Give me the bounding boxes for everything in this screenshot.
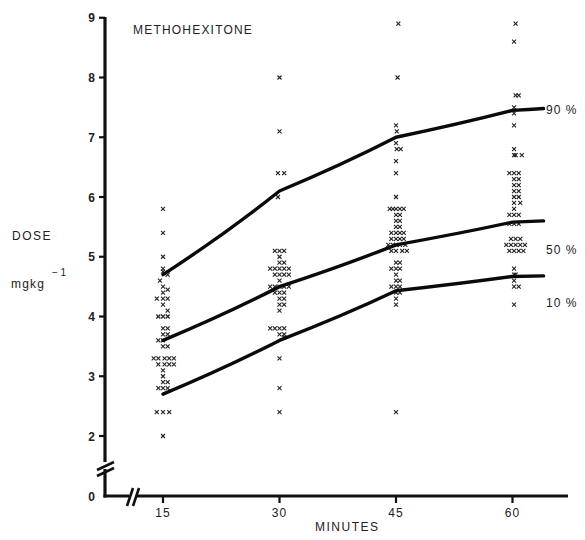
x-marker-icon xyxy=(394,297,398,301)
x-marker-icon xyxy=(517,177,521,181)
x-marker-icon xyxy=(394,141,398,145)
x-marker-icon xyxy=(161,368,165,372)
x-marker-icon xyxy=(394,219,398,223)
x-marker-icon xyxy=(155,410,159,414)
x-marker-icon xyxy=(278,309,282,313)
x-marker-icon xyxy=(268,326,272,330)
x-marker-icon xyxy=(512,171,516,175)
x-marker-icon xyxy=(517,213,521,217)
x-marker-icon xyxy=(282,249,286,253)
x-marker-icon xyxy=(278,303,282,307)
x-marker-icon xyxy=(278,261,282,265)
x-marker-icon xyxy=(273,273,277,277)
x-marker-icon xyxy=(278,129,282,133)
x-marker-icon xyxy=(282,273,286,277)
x-marker-icon xyxy=(389,231,393,235)
x-marker-icon xyxy=(396,22,400,26)
x-marker-icon xyxy=(278,386,282,390)
x-marker-icon xyxy=(512,285,516,289)
x-marker-icon xyxy=(394,225,398,229)
x-marker-icon xyxy=(394,237,398,241)
x-marker-icon xyxy=(278,76,282,80)
x-marker-icon xyxy=(166,386,170,390)
x-marker-icon xyxy=(278,326,282,330)
x-marker-icon xyxy=(512,177,516,181)
x-marker-icon xyxy=(161,207,165,211)
y-tick-label: 8 xyxy=(88,71,95,85)
y-tick-label: 0 xyxy=(88,490,95,504)
curve-label-50: 50 % xyxy=(546,243,577,257)
x-marker-icon xyxy=(402,231,406,235)
x-marker-icon xyxy=(161,344,165,348)
x-marker-icon xyxy=(518,243,522,247)
x-marker-icon xyxy=(156,356,160,360)
x-marker-icon xyxy=(161,285,165,289)
x-tick-label: 15 xyxy=(155,506,170,520)
x-marker-icon xyxy=(507,213,511,217)
x-marker-icon xyxy=(161,374,165,378)
x-marker-icon xyxy=(512,279,516,283)
x-marker-icon xyxy=(398,285,402,289)
x-marker-icon xyxy=(512,189,516,193)
x-axis-label: MINUTES xyxy=(315,520,380,534)
x-marker-icon xyxy=(509,237,513,241)
x-marker-icon xyxy=(166,288,170,292)
x-marker-icon xyxy=(394,231,398,235)
x-marker-icon xyxy=(287,273,291,277)
x-marker-icon xyxy=(398,219,402,223)
x-marker-icon xyxy=(512,249,516,253)
y-axis-units: mgkg xyxy=(11,277,45,291)
x-marker-icon xyxy=(282,297,286,301)
x-marker-icon xyxy=(276,171,280,175)
x-marker-icon xyxy=(389,237,393,241)
x-marker-icon xyxy=(512,183,516,187)
x-marker-icon xyxy=(158,279,162,283)
x-marker-icon xyxy=(517,195,521,199)
x-marker-icon xyxy=(273,249,277,253)
x-marker-icon xyxy=(166,380,170,384)
x-marker-icon xyxy=(394,123,398,127)
y-tick-label: 3 xyxy=(88,370,95,384)
curve-10 xyxy=(163,276,544,394)
x-marker-icon xyxy=(507,249,511,253)
x-marker-icon xyxy=(273,267,277,271)
x-marker-icon xyxy=(399,147,403,151)
y-axis-units-exponent: − 1 xyxy=(52,267,67,278)
x-marker-icon xyxy=(509,243,513,247)
x-marker-icon xyxy=(398,213,402,217)
x-tick-label: 30 xyxy=(272,506,287,520)
x-tick-label: 60 xyxy=(505,506,520,520)
x-marker-icon xyxy=(394,207,398,211)
x-marker-icon xyxy=(398,231,402,235)
x-marker-icon xyxy=(520,153,524,157)
x-marker-icon xyxy=(278,267,282,271)
x-marker-icon xyxy=(521,249,525,253)
y-tick-label: 6 xyxy=(88,191,95,205)
x-marker-icon xyxy=(517,189,521,193)
x-marker-icon xyxy=(161,332,165,336)
curve-label-90: 90 % xyxy=(546,103,577,117)
x-marker-icon xyxy=(156,386,160,390)
x-marker-icon xyxy=(268,267,272,271)
x-marker-icon xyxy=(282,291,286,295)
x-marker-icon xyxy=(523,243,527,247)
x-marker-icon xyxy=(398,261,402,265)
x-marker-icon xyxy=(276,195,280,199)
x-tick-label: 45 xyxy=(388,506,403,520)
y-tick-label: 5 xyxy=(88,250,95,264)
axes: 02345678915304560 xyxy=(88,11,568,520)
x-marker-icon xyxy=(394,273,398,277)
x-marker-icon xyxy=(394,171,398,175)
x-marker-icon xyxy=(155,297,159,301)
x-marker-icon xyxy=(278,273,282,277)
x-marker-icon xyxy=(161,315,165,319)
x-marker-icon xyxy=(394,303,398,307)
x-marker-icon xyxy=(402,207,406,211)
x-marker-icon xyxy=(514,22,518,26)
x-marker-icon xyxy=(398,279,402,283)
x-marker-icon xyxy=(512,303,516,307)
x-marker-icon xyxy=(394,267,398,271)
x-marker-icon xyxy=(517,285,521,289)
percentile-curves xyxy=(163,109,544,395)
x-marker-icon xyxy=(167,410,171,414)
